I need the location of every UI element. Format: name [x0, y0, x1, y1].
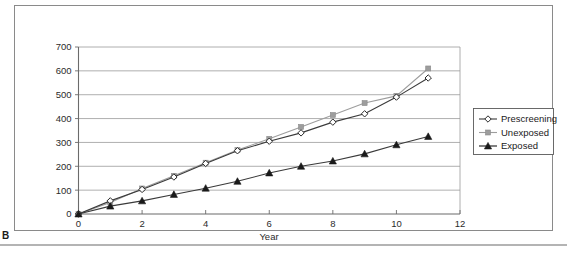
series-line-unexposed	[79, 68, 429, 214]
datapoint-unexposed-8	[330, 112, 335, 117]
datapoint-unexposed-9	[362, 101, 367, 106]
x-tick-label-10: 10	[391, 218, 402, 229]
x-axis-tick-labels: 024681012	[76, 218, 465, 229]
panel-letter: B	[2, 230, 9, 242]
line-chart: 0100200300400500600700 024681012 Year Pr…	[0, 0, 567, 260]
y-tick-label-600: 600	[56, 65, 72, 76]
y-tick-label-100: 100	[56, 185, 72, 196]
bottom-divider	[0, 244, 567, 246]
x-axis-title: Year	[259, 231, 278, 242]
gridlines	[79, 47, 461, 214]
y-tick-label-500: 500	[56, 89, 72, 100]
y-tick-label-700: 700	[56, 41, 72, 52]
datapoint-exposed-11	[425, 133, 432, 140]
y-tick-label-300: 300	[56, 137, 72, 148]
datapoint-prescreening-11	[425, 75, 431, 81]
x-tick-label-8: 8	[330, 218, 335, 229]
series-prescreening	[75, 75, 431, 217]
series-line-exposed	[79, 136, 429, 214]
chart-legend: PrescreeningUnexposedExposed	[474, 109, 557, 155]
figure-root: 0100200300400500600700 024681012 Year Pr…	[0, 0, 567, 260]
y-tick-label-200: 200	[56, 161, 72, 172]
series-line-prescreening	[79, 78, 429, 214]
datapoint-prescreening-8	[330, 119, 336, 125]
datapoint-unexposed-7	[299, 124, 304, 129]
datapoint-unexposed-11	[426, 66, 431, 71]
legend-label-prescreening: Prescreening	[501, 113, 557, 124]
legend-label-unexposed: Unexposed	[501, 127, 549, 138]
x-tick-label-12: 12	[455, 218, 466, 229]
data-series-group	[75, 66, 432, 217]
x-tick-label-0: 0	[76, 218, 81, 229]
legend-label-exposed: Exposed	[501, 140, 538, 151]
datapoint-prescreening-7	[298, 130, 304, 136]
y-tick-label-0: 0	[66, 208, 71, 219]
datapoint-prescreening-9	[361, 111, 367, 117]
x-tick-label-2: 2	[139, 218, 144, 229]
x-tick-label-6: 6	[267, 218, 272, 229]
y-tick-label-400: 400	[56, 113, 72, 124]
legend-marker-unexposed	[486, 130, 491, 135]
x-tick-label-4: 4	[203, 218, 208, 229]
axis-ticks	[75, 47, 460, 214]
y-axis-tick-labels: 0100200300400500600700	[56, 41, 72, 219]
